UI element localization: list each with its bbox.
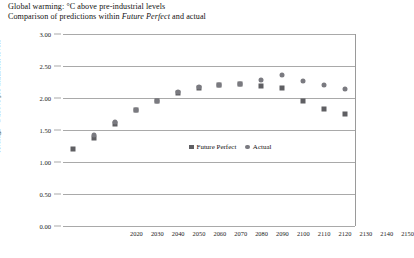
gridline — [63, 34, 355, 35]
y-axis-tick-label: 1.00 — [5, 159, 51, 166]
data-point-future-perfect — [280, 86, 285, 91]
y-axis-tick-label: 0.50 — [5, 191, 51, 198]
subtitle-prefix: Comparison of predictions within — [8, 12, 122, 21]
x-axis-tick-label: 2020 — [130, 230, 143, 237]
x-axis-tick-label: 2030 — [151, 230, 164, 237]
gridline — [63, 226, 355, 227]
x-axis-tick-label: 2120 — [339, 230, 352, 237]
legend-item-actual: Actual — [245, 143, 271, 151]
data-point-actual — [217, 82, 222, 87]
data-point-actual — [175, 90, 180, 95]
gridline — [63, 98, 355, 99]
y-axis-tick-mark — [54, 226, 61, 227]
y-axis-tick-label: 3.00 — [5, 31, 51, 38]
x-axis-tick-label: 2040 — [172, 230, 185, 237]
y-axis-tick-mark — [54, 98, 61, 99]
y-axis-tick-mark — [54, 66, 61, 67]
y-axis-tick-label: 2.00 — [5, 95, 51, 102]
data-point-future-perfect — [321, 106, 326, 111]
data-point-actual — [259, 78, 264, 83]
gridline — [63, 130, 355, 131]
gridline — [63, 162, 355, 163]
x-axis-tick-label: 2050 — [193, 230, 206, 237]
x-axis-tick-label: 2130 — [359, 230, 372, 237]
data-point-actual — [134, 107, 139, 112]
chart-title: Global warming: °C above pre-industrial … — [8, 2, 360, 12]
data-point-actual — [154, 99, 159, 104]
x-axis-tick-label: 2100 — [297, 230, 310, 237]
data-point-actual — [321, 83, 326, 88]
x-axis-tick-label: 2140 — [380, 230, 393, 237]
legend-label-actual: Actual — [253, 143, 272, 151]
y-axis-tick-mark — [54, 162, 61, 163]
y-axis-tick-mark — [54, 34, 61, 35]
x-axis-tick-label: 2150 — [401, 230, 414, 237]
x-axis-tick-label: 2080 — [255, 230, 268, 237]
data-point-actual — [113, 120, 118, 125]
y-axis-tick-label: 1.50 — [5, 127, 51, 134]
y-axis-tick-mark — [54, 130, 61, 131]
gridline — [63, 66, 355, 67]
y-axis-tick-label: 2.50 — [5, 63, 51, 70]
data-point-actual — [92, 133, 97, 138]
x-axis-tick-label: 2060 — [213, 230, 226, 237]
data-point-future-perfect — [300, 99, 305, 104]
subtitle-suffix: and actual — [170, 12, 206, 21]
gridline — [63, 194, 355, 195]
square-marker-icon — [189, 145, 194, 150]
x-axis-tick-label: 2110 — [318, 230, 331, 237]
x-axis-tick-label: 2070 — [234, 230, 247, 237]
legend-label-future-perfect: Future Perfect — [197, 143, 237, 151]
chart-legend: Future Perfect Actual — [189, 143, 272, 151]
data-point-actual — [238, 81, 243, 86]
chart-subtitle: Comparison of predictions within Future … — [8, 12, 360, 22]
subtitle-italic-book-title: Future Perfect — [122, 12, 170, 21]
legend-item-future-perfect: Future Perfect — [189, 143, 236, 151]
data-point-actual — [342, 87, 347, 92]
y-axis-tick-label: 0.00 — [5, 223, 51, 230]
data-point-actual — [300, 79, 305, 84]
data-point-future-perfect — [342, 112, 347, 117]
circle-marker-icon — [245, 145, 250, 150]
data-point-future-perfect — [71, 147, 76, 152]
plot-area: 2020203020402050206020702080209021002110… — [63, 34, 356, 226]
y-axis-tick-mark — [54, 194, 61, 195]
chart-titles: Global warming: °C above pre-industrial … — [8, 2, 360, 23]
data-point-actual — [280, 72, 285, 77]
data-point-actual — [196, 85, 201, 90]
x-axis-tick-label: 2090 — [276, 230, 289, 237]
data-point-future-perfect — [259, 84, 264, 89]
